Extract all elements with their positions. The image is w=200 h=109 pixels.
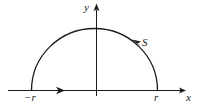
y-axis-label: y bbox=[84, 2, 89, 13]
right-endpoint-label: r bbox=[154, 92, 158, 103]
curve-label-s: S bbox=[142, 37, 148, 48]
semicircle-contour-figure: y x −r r S bbox=[0, 0, 200, 109]
x-axis-label: x bbox=[186, 92, 191, 103]
left-endpoint-label: −r bbox=[24, 92, 36, 103]
y-axis-arrowhead bbox=[94, 4, 100, 12]
semicircular-arc bbox=[32, 28, 158, 90]
